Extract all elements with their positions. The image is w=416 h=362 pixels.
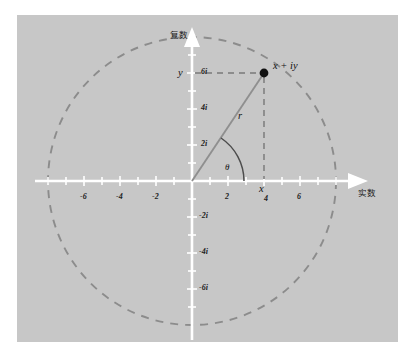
x-tick-label-minus2: -2 bbox=[152, 193, 159, 201]
x-projection-label: x bbox=[259, 184, 264, 195]
real-axis-arrowhead bbox=[348, 173, 368, 189]
x-tick-label-2: 2 bbox=[225, 193, 229, 201]
angle-label: θ bbox=[225, 163, 229, 172]
imaginary-axis-label: 复数 bbox=[170, 31, 188, 40]
y-tick-label-4i: 4i bbox=[201, 104, 207, 112]
y-tick-label-minus4i: -4i bbox=[199, 248, 208, 256]
y-tick-label-2i: 2i bbox=[201, 140, 207, 148]
complex-plane-svg bbox=[17, 15, 398, 342]
complex-plane-plot: 复数 实数 -6 -4 -2 2 4 6 6i 4i 2i -2i -4i -6… bbox=[17, 15, 398, 342]
x-tick-label-minus6: -6 bbox=[80, 193, 87, 201]
angle-arc bbox=[221, 138, 244, 181]
real-axis-label: 实数 bbox=[358, 189, 376, 198]
figure-canvas: 复数 实数 -6 -4 -2 2 4 6 6i 4i 2i -2i -4i -6… bbox=[0, 0, 416, 362]
x-tick-label-minus4: -4 bbox=[116, 193, 123, 201]
complex-point-marker bbox=[260, 69, 269, 78]
y-projection-label: y bbox=[178, 68, 183, 79]
y-tick-label-minus6i: -6i bbox=[199, 284, 208, 292]
x-tick-label-6: 6 bbox=[297, 193, 301, 201]
y-tick-label-minus2i: -2i bbox=[199, 212, 208, 220]
radius-label: r bbox=[238, 111, 242, 122]
complex-point-label: x + iy bbox=[273, 61, 298, 72]
x-tick-label-4: 4 bbox=[264, 195, 268, 203]
y-tick-label-6i: 6i bbox=[201, 68, 207, 76]
